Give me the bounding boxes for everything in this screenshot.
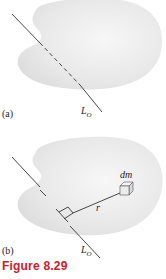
panel-label-a: (a) [2, 108, 13, 120]
panel-label-b: (b) [2, 245, 14, 257]
radius-label: r [96, 202, 100, 213]
figure-caption: Figure 8.29 [2, 259, 68, 273]
mass-element-cube [120, 182, 133, 195]
axis-label-a: LO [80, 105, 92, 119]
panel-b: r dm (b) LO [2, 137, 163, 258]
figure-diagram: (a) LO r dm (b) LO [0, 0, 166, 279]
panel-a: (a) LO [2, 0, 162, 120]
axis-label-b: LO [80, 244, 92, 258]
rigid-body-a [18, 0, 163, 89]
mass-element-label: dm [120, 169, 132, 180]
